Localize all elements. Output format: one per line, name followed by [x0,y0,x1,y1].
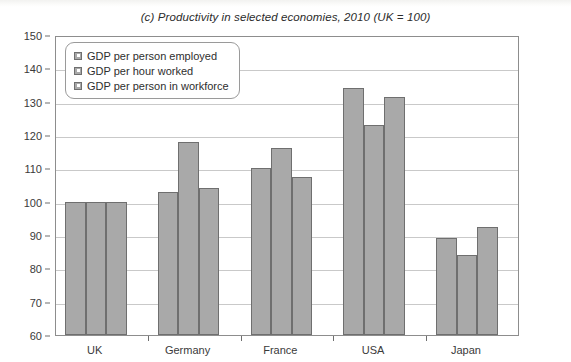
bar [292,177,313,335]
bar [384,97,405,335]
y-tick-mark [45,102,50,103]
y-tick-mark [45,36,50,37]
chart-legend: GDP per person employedGDP per hour work… [65,42,240,99]
y-axis: 60708090100110120130140150 [0,36,50,336]
legend-swatch-icon [74,67,82,75]
y-tick-mark [45,302,50,303]
y-tick-label: 80 [30,263,42,275]
x-tick-label: USA [362,344,385,356]
y-tick-mark [45,336,50,337]
legend-label: GDP per hour worked [87,65,193,77]
bar [158,192,179,335]
legend-item: GDP per person employed [74,48,229,63]
x-tick-label: France [263,344,297,356]
bar [65,202,86,335]
legend-swatch-icon [74,82,82,90]
bar [199,188,220,335]
bar [457,255,478,335]
bar [477,227,498,335]
y-tick-mark [45,136,50,137]
x-tick-label: Germany [165,344,210,356]
bar [271,148,292,335]
y-tick-label: 110 [24,163,42,175]
bar [86,202,107,335]
y-tick-mark [45,269,50,270]
y-tick-label: 70 [30,297,42,309]
x-tick-mark [333,336,334,341]
y-tick-label: 100 [24,197,42,209]
x-tick-mark [148,336,149,341]
legend-item: GDP per person in workforce [74,78,229,93]
legend-label: GDP per person in workforce [87,80,229,92]
bar [251,168,272,335]
y-tick-mark [45,236,50,237]
x-tick-label: UK [87,344,102,356]
y-tick-label: 140 [24,63,42,75]
y-tick-label: 60 [30,330,42,342]
bar [364,125,385,335]
y-tick-label: 130 [24,97,42,109]
y-tick-label: 90 [30,230,42,242]
x-tick-mark [241,336,242,341]
legend-item: GDP per hour worked [74,63,229,78]
x-tick-label: Japan [451,344,481,356]
y-tick-label: 150 [24,30,42,42]
legend-label: GDP per person employed [87,50,217,62]
bar [178,142,199,335]
source-note [28,357,548,362]
y-tick-label: 120 [24,130,42,142]
bar [343,88,364,335]
legend-swatch-icon [74,52,82,60]
y-tick-mark [45,69,50,70]
y-tick-mark [45,202,50,203]
bar [106,202,127,335]
y-tick-mark [45,169,50,170]
bar [436,238,457,335]
x-tick-mark [426,336,427,341]
chart-title: (c) Productivity in selected economies, … [0,11,571,23]
chart-figure: (c) Productivity in selected economies, … [0,0,571,362]
